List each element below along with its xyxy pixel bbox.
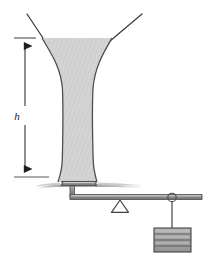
fulcrum-triangle: [112, 200, 129, 212]
lever-assembly: [70, 186, 202, 212]
impact-plate-body: [62, 181, 96, 186]
funnel-right-wall: [110, 14, 142, 41]
lever-beam: [70, 195, 202, 200]
weight-assembly: [154, 193, 191, 252]
jet-fill: [42, 38, 112, 182]
diagram-canvas: h: [0, 0, 209, 255]
funnel-left-wall: [27, 14, 45, 41]
impact-plate: [62, 181, 96, 186]
height-dimension: h: [10, 38, 49, 177]
height-label: h: [14, 110, 20, 122]
physics-diagram-figure: h: [0, 0, 209, 255]
funnel-nozzle: [27, 14, 142, 41]
water-jet: [42, 38, 112, 182]
